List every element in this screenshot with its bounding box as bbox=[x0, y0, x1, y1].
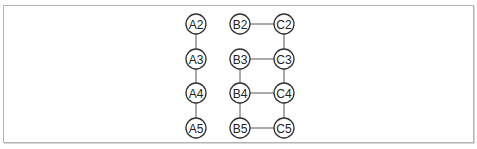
node-a4: A4 bbox=[186, 83, 206, 103]
node-a3: A3 bbox=[186, 49, 206, 69]
node-label: A5 bbox=[189, 122, 204, 136]
node-a2: A2 bbox=[186, 14, 206, 34]
edges-layer bbox=[196, 24, 284, 128]
node-label: A4 bbox=[189, 87, 204, 101]
node-a5: A5 bbox=[186, 118, 206, 138]
node-label: B2 bbox=[233, 18, 248, 32]
node-label: C4 bbox=[276, 87, 292, 101]
node-b2: B2 bbox=[230, 14, 250, 34]
node-b5: B5 bbox=[230, 118, 250, 138]
node-label: C2 bbox=[276, 18, 292, 32]
node-c4: C4 bbox=[274, 83, 294, 103]
node-b3: B3 bbox=[230, 49, 250, 69]
node-label: B5 bbox=[233, 122, 248, 136]
node-label: C5 bbox=[276, 122, 292, 136]
node-label: A3 bbox=[189, 53, 204, 67]
node-label: A2 bbox=[189, 18, 204, 32]
node-label: B3 bbox=[233, 53, 248, 67]
node-c3: C3 bbox=[274, 49, 294, 69]
node-c5: C5 bbox=[274, 118, 294, 138]
graph-canvas: A2A3A4A5B2B3B4B5C2C3C4C5 bbox=[0, 0, 477, 149]
node-b4: B4 bbox=[230, 83, 250, 103]
node-label: C3 bbox=[276, 53, 292, 67]
node-c2: C2 bbox=[274, 14, 294, 34]
node-label: B4 bbox=[233, 87, 248, 101]
